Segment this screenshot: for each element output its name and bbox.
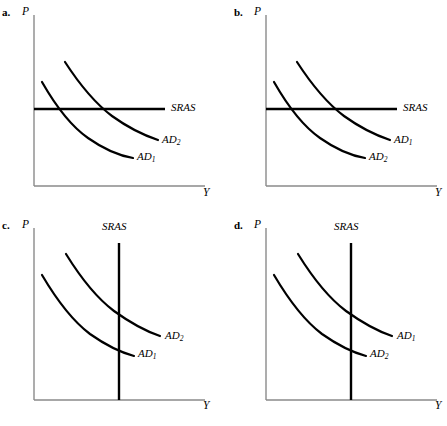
panel-c: c. P Y SRAS AD2 AD1 (0, 213, 224, 426)
ad-label-right-c: AD2 (165, 329, 183, 341)
ad-label-left-b: AD2 (369, 150, 387, 162)
panel-b: b. P Y SRAS AD1 AD2 (232, 0, 447, 213)
ad-label-left-d: AD2 (370, 347, 388, 359)
ad-label-left-c: AD1 (138, 347, 156, 359)
ad-curve-right-d (298, 254, 392, 336)
sras-label-b: SRAS (403, 101, 427, 113)
ad-curve-right-a (65, 62, 158, 140)
ad-curve-right-c (66, 254, 160, 336)
ad-curve-right-b (297, 62, 390, 140)
figure-container: a. P Y SRAS AD2 AD1 b. P Y SRAS AD1 AD2 … (0, 0, 447, 426)
chart-svg-d (232, 213, 447, 426)
sras-label-d: SRAS (334, 220, 358, 232)
ad-label-right-d: AD1 (397, 329, 415, 341)
ad-label-right-b: AD1 (394, 133, 412, 145)
panel-a: a. P Y SRAS AD2 AD1 (0, 0, 224, 213)
ad-label-right-a: AD2 (162, 133, 180, 145)
ad-label-left-a: AD1 (137, 150, 155, 162)
sras-label-a: SRAS (171, 101, 195, 113)
panel-d: d. P Y SRAS AD1 AD2 (232, 213, 447, 426)
chart-svg-c (0, 213, 224, 426)
sras-label-c: SRAS (102, 220, 126, 232)
